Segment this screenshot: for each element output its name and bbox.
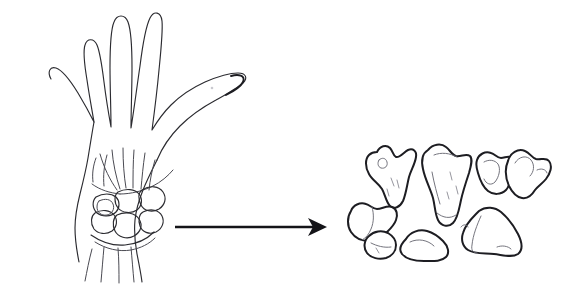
figure-root xyxy=(0,0,572,297)
hand-carpal-diagram xyxy=(0,0,572,297)
bone-trapezoid-outline xyxy=(365,231,396,258)
bone-trapezoid xyxy=(365,231,396,258)
paper-speck xyxy=(211,87,214,90)
